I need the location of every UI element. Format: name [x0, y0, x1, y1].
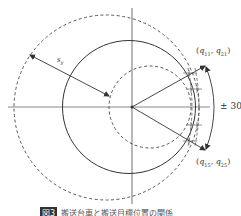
- distance-label: sy: [57, 56, 63, 65]
- angle-label: ± 30°: [220, 101, 241, 111]
- paren-close: ): [227, 46, 230, 55]
- point-label-top: (q11, q21): [196, 46, 230, 57]
- point-label-bottom: (q15, q25): [196, 157, 230, 168]
- distance-sub: y: [61, 59, 64, 65]
- radial-line-top: [132, 66, 205, 107]
- figure-number: 図3: [40, 207, 57, 216]
- distance-arrow: [30, 55, 109, 96]
- paren-close: ): [227, 157, 230, 166]
- center-point: [131, 106, 134, 109]
- figure-caption: 図3搬送台車と搬送目標位置の関係: [40, 207, 210, 216]
- diagram-canvas: [0, 0, 241, 216]
- caption-text: 搬送台車と搬送目標位置の関係: [61, 209, 173, 216]
- diagram-figure: (q11, q21) (q15, q25) ± 30° sy 図3搬送台車と搬送…: [0, 0, 241, 216]
- angle-arc: [206, 67, 214, 149]
